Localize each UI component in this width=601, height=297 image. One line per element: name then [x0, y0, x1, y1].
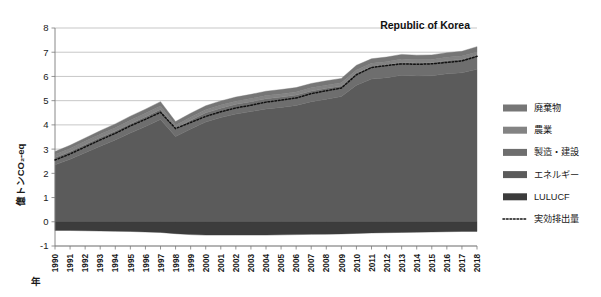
emissions-area-chart: 876543210-1 1990199119921993199419951996… [0, 0, 601, 297]
x-tick-label: 2012 [383, 254, 392, 273]
legend-label: 農業 [534, 124, 552, 135]
x-tick-label: 2013 [398, 254, 407, 273]
y-tick-label: 2 [43, 168, 48, 179]
y-tick-label: 3 [43, 144, 48, 155]
x-tick-label: 2010 [353, 254, 362, 273]
x-tick-label: 1991 [66, 254, 75, 273]
legend-label: 製造・建設 [534, 146, 579, 157]
y-tick-label: 6 [43, 71, 48, 82]
x-tick-label: 2016 [443, 254, 452, 273]
x-tick-label: 1992 [81, 254, 90, 273]
legend-swatch [503, 171, 527, 178]
x-axis-title: 年 [31, 276, 41, 287]
y-tick-label: 1 [43, 192, 48, 203]
chart-title: Republic of Korea [380, 19, 470, 31]
legend-swatch [503, 105, 527, 112]
chart-container: 876543210-1 1990199119921993199419951996… [0, 0, 601, 297]
x-tick-label: 2002 [232, 254, 241, 273]
x-tick-label: 1993 [96, 254, 105, 273]
x-tick-label: 1997 [157, 254, 166, 273]
x-tick-label: 1998 [172, 254, 181, 273]
x-tick-label: 1999 [187, 254, 196, 273]
x-tick-label: 2018 [473, 254, 482, 273]
x-tick-label: 2015 [428, 254, 437, 273]
y-tick-label: 8 [43, 22, 48, 33]
x-tick-label: 2004 [262, 254, 271, 273]
x-tick-label: 2000 [202, 254, 211, 273]
legend-label: 廃棄物 [534, 102, 561, 113]
x-tick-label: 1995 [127, 254, 136, 273]
x-tick-label: 2008 [322, 254, 331, 273]
x-tick-label: 2011 [368, 254, 377, 272]
legend-swatch [503, 149, 527, 156]
legend-label: LULUCF [534, 192, 570, 202]
y-tick-label: 4 [43, 119, 48, 130]
x-tick-label: 1990 [51, 254, 60, 273]
y-tick-label: 7 [43, 47, 48, 58]
x-tick-label: 1996 [142, 254, 151, 273]
y-tick-label: -1 [40, 240, 48, 251]
legend-swatch [503, 193, 527, 200]
legend-label: エネルギー [534, 170, 579, 180]
x-tick-label: 2003 [247, 254, 256, 273]
x-tick-label: 2006 [292, 254, 301, 273]
x-tick-label: 2017 [458, 254, 467, 273]
legend-label: 実効排出量 [534, 213, 579, 224]
y-axis-title: 億トンCO₂-eq [15, 143, 26, 206]
x-tick-label: 2009 [338, 254, 347, 273]
x-tick-label: 2014 [413, 254, 422, 273]
x-tick-label: 2007 [307, 254, 316, 273]
legend-swatch [503, 127, 527, 134]
x-tick-label: 2005 [277, 254, 286, 273]
y-tick-label: 0 [43, 216, 48, 227]
x-tick-label: 1994 [111, 254, 120, 273]
y-tick-label: 5 [43, 95, 48, 106]
x-tick-label: 2001 [217, 254, 226, 273]
